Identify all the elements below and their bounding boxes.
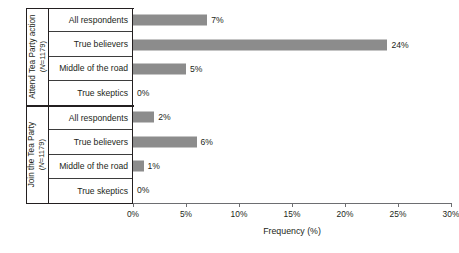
x-axis-title: Frequency (%) bbox=[133, 226, 451, 236]
category-label: Middle of the road bbox=[49, 57, 132, 81]
bar-value-label: 5% bbox=[186, 64, 202, 74]
x-axis-tick-label: 10% bbox=[231, 209, 248, 219]
group-label-attend: Attend Tea Party action bbox=[27, 14, 36, 99]
x-axis-tick bbox=[133, 203, 134, 207]
category-label: True skeptics bbox=[49, 81, 132, 105]
category-label-column: All respondents True believers Middle of… bbox=[48, 8, 133, 105]
plot-area: 7% 24% 5% 0% 2% 6% 1% 0% bbox=[133, 8, 451, 203]
bar-row: 5% bbox=[133, 57, 451, 81]
category-label-column: All respondents True believers Middle of… bbox=[48, 106, 133, 203]
group-n-join: (N=1179) bbox=[37, 122, 47, 187]
category-label: All respondents bbox=[49, 106, 132, 130]
category-label: Middle of the road bbox=[49, 155, 132, 179]
category-label: True skeptics bbox=[49, 179, 132, 203]
bar bbox=[133, 63, 186, 74]
x-axis-tick bbox=[345, 203, 346, 207]
group-label-join: Join the Tea Party bbox=[27, 122, 36, 187]
x-axis-tick bbox=[239, 203, 240, 207]
bar bbox=[133, 15, 207, 26]
bar-value-label: 2% bbox=[154, 112, 170, 122]
bar-row: 0% bbox=[133, 81, 451, 105]
bar bbox=[133, 112, 154, 123]
x-axis-tick-label: 30% bbox=[443, 209, 459, 219]
category-label: All respondents bbox=[49, 8, 132, 32]
bar-row: 24% bbox=[133, 32, 451, 56]
bar-value-label: 24% bbox=[387, 40, 408, 50]
x-axis-tick-label: 15% bbox=[284, 209, 301, 219]
bar-row: 1% bbox=[133, 154, 451, 178]
group-n-attend: (N=1179) bbox=[37, 14, 47, 99]
bar-row: 7% bbox=[133, 8, 451, 32]
category-label: True believers bbox=[49, 32, 132, 56]
x-axis-tick bbox=[398, 203, 399, 207]
bar bbox=[133, 160, 144, 171]
bar-row: 6% bbox=[133, 129, 451, 153]
frame-bottom bbox=[26, 203, 134, 204]
bar-value-label: 0% bbox=[133, 185, 149, 195]
x-axis-tick-label: 5% bbox=[180, 209, 192, 219]
x-axis-tick bbox=[451, 203, 452, 207]
group-stub-join: Join the Tea Party (N=1179) bbox=[26, 106, 48, 203]
group-stub-attend: Attend Tea Party action (N=1179) bbox=[26, 8, 48, 105]
bar-value-label: 7% bbox=[207, 15, 223, 25]
bar bbox=[133, 136, 197, 147]
bar-row: 2% bbox=[133, 105, 451, 129]
bar-value-label: 6% bbox=[197, 137, 213, 147]
x-axis-tick bbox=[292, 203, 293, 207]
bar-value-label: 0% bbox=[133, 88, 149, 98]
bar-value-label: 1% bbox=[144, 161, 160, 171]
x-axis-tick-label: 20% bbox=[337, 209, 354, 219]
x-axis-tick-label: 25% bbox=[390, 209, 407, 219]
category-label: True believers bbox=[49, 130, 132, 154]
bar-row: 0% bbox=[133, 178, 451, 202]
x-axis-tick bbox=[186, 203, 187, 207]
bar bbox=[133, 39, 387, 50]
x-axis-tick-label: 0% bbox=[127, 209, 139, 219]
